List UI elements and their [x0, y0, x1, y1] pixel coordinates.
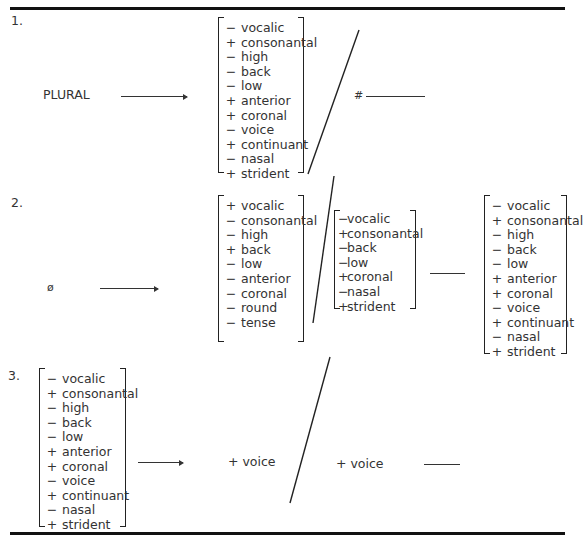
- feature-row: + anterior: [225, 94, 317, 109]
- feature-row: − back: [491, 243, 583, 258]
- feature-row: − high: [491, 228, 583, 243]
- feature-row: + consonantal: [225, 36, 317, 51]
- feature-row: − low: [46, 430, 138, 445]
- feature-row: − nasal: [491, 330, 583, 345]
- rule-3-output-feature: + voice: [228, 455, 276, 469]
- feature-row: +strident: [338, 300, 423, 315]
- feature-row: − high: [225, 228, 317, 243]
- rule-2-left-context-matrix: −vocalic +consonantal −back −low +corona…: [334, 210, 416, 309]
- feature-row: +coronal: [338, 270, 423, 285]
- rule-3-arrow: [138, 462, 183, 463]
- feature-row: +consonantal: [338, 227, 423, 242]
- feature-row: − low: [225, 257, 317, 272]
- rule-1-output-matrix: − vocalic + consonantal − high − back − …: [218, 17, 304, 173]
- feature-row: − high: [225, 50, 317, 65]
- rule-3-number: 3.: [8, 369, 20, 383]
- rule-3-input-matrix: − vocalic + consonantal − high − back − …: [39, 368, 126, 527]
- rule-2-input-null: ø: [47, 281, 54, 295]
- feature-row: − vocalic: [491, 199, 583, 214]
- feature-row: −low: [338, 256, 423, 271]
- feature-row: − low: [491, 257, 583, 272]
- word-boundary-symbol: #: [354, 89, 363, 103]
- rule-2-right-context-matrix: − vocalic + consonantal − high − back − …: [484, 195, 567, 354]
- feature-row: + strident: [46, 518, 138, 533]
- feature-row: − vocalic: [46, 372, 138, 387]
- rule-3-context-feature: + voice: [336, 457, 384, 471]
- feature-row: + consonantal: [46, 387, 138, 402]
- rule-1-arrow: [121, 96, 187, 97]
- rule-2-output-matrix: + vocalic − consonantal − high + back − …: [218, 195, 304, 342]
- feature-row: + continuant: [225, 138, 317, 153]
- feature-row: − nasal: [225, 152, 317, 167]
- feature-row: − voice: [491, 301, 583, 316]
- feature-row: + anterior: [491, 272, 583, 287]
- feature-row: − nasal: [46, 503, 138, 518]
- feature-row: + coronal: [491, 287, 583, 302]
- feature-row: − high: [46, 401, 138, 416]
- feature-row: + continuant: [491, 316, 583, 331]
- left-bracket: [218, 17, 224, 173]
- slash-rule-3: [290, 357, 330, 503]
- feature-row: + back: [225, 243, 317, 258]
- feature-row: −nasal: [338, 285, 423, 300]
- feature-row: + continuant: [46, 489, 138, 504]
- feature-row: − tense: [225, 316, 317, 331]
- feature-row: − round: [225, 301, 317, 316]
- rule-1-number: 1.: [11, 14, 23, 28]
- feature-row: + vocalic: [225, 199, 317, 214]
- rule-1-input: PLURAL: [43, 88, 90, 102]
- left-bracket: [484, 195, 490, 354]
- rule-1-focus-position: [366, 96, 425, 97]
- feature-row: + strident: [225, 167, 317, 182]
- rule-3-focus-position: [424, 464, 460, 465]
- feature-row: − back: [46, 416, 138, 431]
- feature-row: + coronal: [225, 109, 317, 124]
- feature-row: + strident: [491, 345, 583, 360]
- feature-row: + coronal: [46, 460, 138, 475]
- left-bracket: [218, 195, 224, 342]
- rule-2-focus-position: [430, 273, 465, 274]
- feature-row: − voice: [46, 474, 138, 489]
- feature-row: + anterior: [46, 445, 138, 460]
- feature-row: − back: [225, 65, 317, 80]
- rule-2-arrow: [100, 288, 158, 289]
- feature-row: − low: [225, 79, 317, 94]
- rule-2-number: 2.: [11, 196, 23, 210]
- feature-row: − anterior: [225, 272, 317, 287]
- feature-row: −vocalic: [338, 212, 423, 227]
- left-bracket: [39, 368, 45, 527]
- feature-row: − coronal: [225, 287, 317, 302]
- feature-row: − voice: [225, 123, 317, 138]
- feature-row: + consonantal: [491, 214, 583, 229]
- feature-row: −back: [338, 241, 423, 256]
- feature-row: − vocalic: [225, 21, 317, 36]
- feature-row: − consonantal: [225, 214, 317, 229]
